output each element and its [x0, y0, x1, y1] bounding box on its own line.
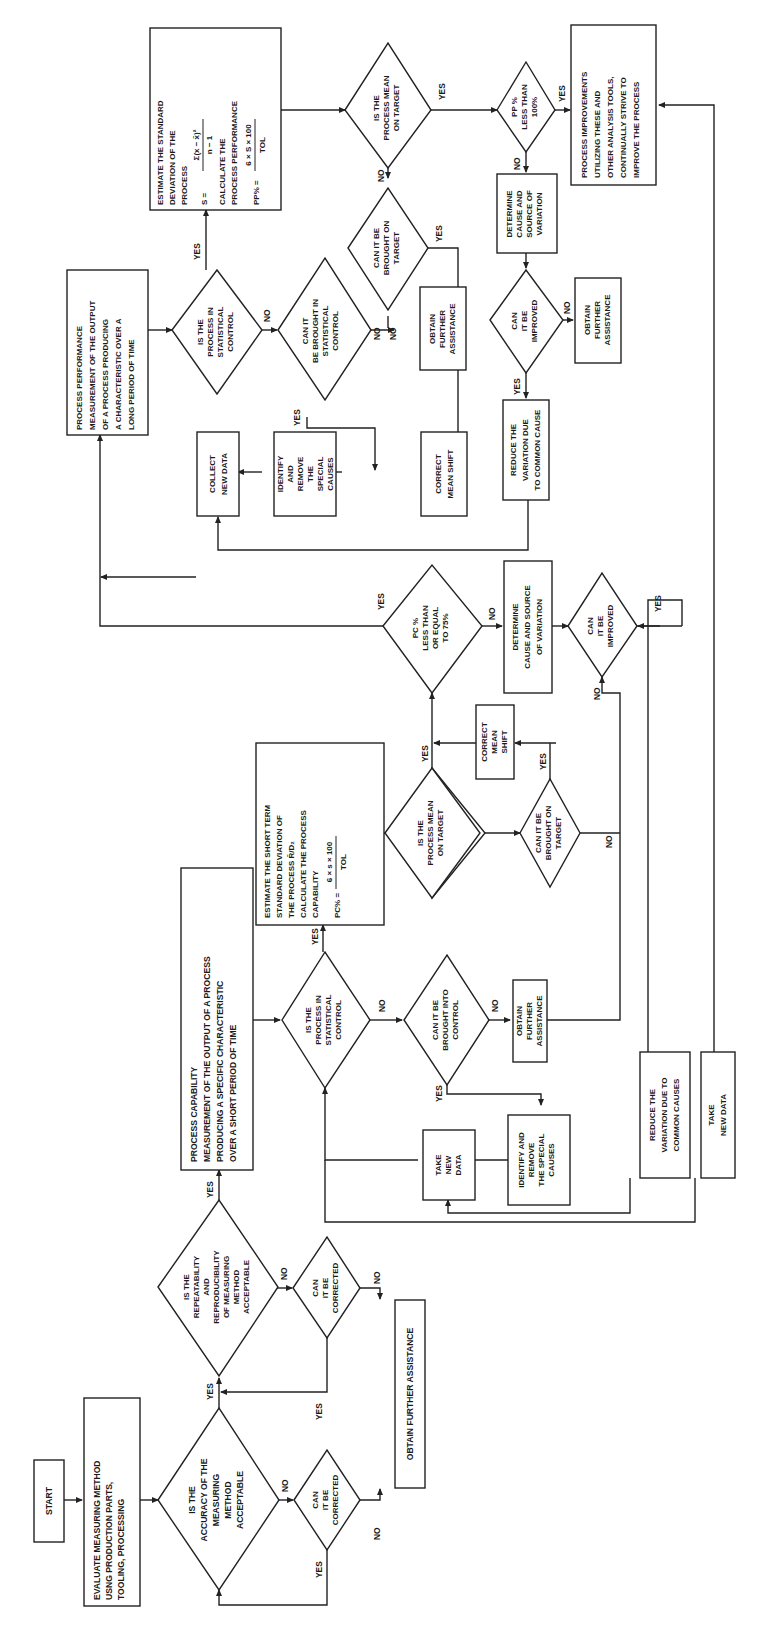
formula-lhs: PP% =	[252, 180, 261, 205]
pp-mean-on-target-decision: IS THE PROCESS MEAN ON TARGET	[345, 43, 431, 168]
node-text: ACCEPTABLE	[235, 1471, 245, 1529]
node-text: IS THE	[187, 1486, 197, 1514]
node-text: METHOD	[232, 1269, 241, 1304]
node-text: REMOVE	[527, 1142, 536, 1177]
node-text: ASSISTANCE	[535, 995, 544, 1047]
node-text: 100%	[530, 97, 539, 117]
edge-label-yes: YES	[437, 83, 447, 100]
node-text: CONTINUALLY STRIVE TO	[619, 77, 628, 178]
node-text: NEW DATA	[719, 1094, 728, 1136]
node-text: DATA	[454, 1154, 463, 1175]
edge	[218, 500, 528, 550]
node-text: SHIFT	[500, 730, 509, 753]
node-text: VARIATION DUE	[521, 418, 530, 481]
node-text: MEASUREMENT OF THE OUTPUT OF A PROCESS	[202, 956, 212, 1162]
node-text: SPECIAL	[316, 457, 325, 492]
node-text: TAKE	[707, 1104, 716, 1126]
edge-label-no: NO	[262, 309, 272, 322]
edge-label-no: NO	[372, 1527, 382, 1540]
node-text: STATISTICAL	[324, 994, 333, 1045]
edge	[325, 1088, 418, 1160]
edge-label-yes: YES	[420, 745, 430, 762]
node-text: PRODUCING A SPECIFIC CHARACTERISTIC	[215, 981, 225, 1162]
node-text: OR EQUAL	[431, 607, 440, 649]
node-text: OF MEASURING	[222, 1256, 231, 1318]
pc-identify-remove-special-causes: IDENTIFY AND REMOVE THE SPECIAL CAUSES	[508, 1115, 570, 1205]
node-text: ACCURACY OF THE	[199, 1458, 209, 1541]
node-text: TO 75%	[441, 613, 450, 642]
node-text: STATISTICAL	[321, 305, 330, 356]
node-text: ASSISTANCE	[603, 294, 612, 346]
edge-label-no: NO	[279, 1267, 289, 1280]
formula-numerator: 6 × s × 100	[325, 841, 334, 882]
node-text: OBTAIN FURTHER ASSISTANCE	[405, 1327, 415, 1460]
node-text: BROUGHT ON	[382, 220, 391, 275]
edge-label-yes: YES	[376, 593, 386, 610]
edge-label-yes: YES	[434, 225, 444, 242]
node-text: OBTAIN	[583, 305, 592, 335]
edge-label-no: NO	[604, 835, 614, 848]
node-text: CAPABILITY	[311, 870, 320, 918]
node-text: REDUCE THE	[648, 1088, 657, 1141]
node-text: LESS THAN	[421, 605, 430, 651]
node-text: CALCULATE THE	[218, 138, 227, 205]
edge	[515, 743, 556, 779]
node-text: CAN IT BE	[372, 227, 381, 268]
node-text: PROCESS	[180, 165, 189, 205]
node-text: TOOLING, PROCESSING	[116, 1499, 126, 1600]
edge-label-no: NO	[490, 999, 500, 1012]
node-text: OF A PROCESS PRODUCING	[101, 319, 110, 430]
node-text: ACCEPTABLE	[242, 1259, 251, 1314]
pc-can-be-improved-decision: CAN IT BE IMPROVED	[568, 573, 637, 677]
edge-label-no: NO	[487, 607, 497, 620]
node-text: CAN IT BE	[534, 812, 543, 853]
pc-determine-cause-source: DETERMINE CAUSE AND SOURCE OF VARIATION	[504, 561, 552, 693]
edge-label-yes: YES	[434, 1085, 444, 1102]
node-text: IS THE	[182, 1273, 191, 1299]
node-text: EVALUATE MEASURING METHOD	[92, 1460, 102, 1600]
edge	[648, 600, 682, 1055]
node-text: IDENTIFY	[276, 455, 285, 492]
node-text: CAUSE AND SOURCE	[523, 584, 532, 668]
node-text: CAN	[510, 312, 519, 330]
node-text: IS THE	[196, 318, 205, 344]
can-be-corrected-decision-1: CAN IT BE CORRECTED	[294, 1450, 360, 1550]
node-text: CAUSES	[326, 457, 335, 491]
node-text: DETERMINE	[511, 603, 520, 651]
node-text: IS THE	[304, 1006, 313, 1032]
node-text: MEASUREMENT OF THE OUTPUT	[88, 301, 97, 430]
pp-obtain-further-assistance-2: OBTAIN FURTHER ASSISTANCE	[575, 278, 621, 363]
edge-label-no: NO	[377, 999, 387, 1012]
node-text: NEW	[444, 1155, 453, 1174]
node-text: USNG PRODUCTION PARTS,	[104, 1482, 114, 1600]
node-text: AND	[286, 465, 295, 483]
edge	[360, 1489, 380, 1500]
pc-less-equal-75-decision: PC % LESS THAN OR EQUAL TO 75%	[383, 565, 482, 693]
edge-label-yes: YES	[205, 1383, 215, 1400]
edge-label-yes: YES	[292, 409, 302, 426]
edge-label-no: NO	[562, 301, 572, 314]
node-text: CAN	[586, 617, 595, 635]
node-text: OTHER ANALYSIS TOOLS,	[606, 77, 615, 179]
pp-brought-in-control-decision: CAN IT BE BROUGHT IN STATISTICAL CONTROL	[278, 258, 371, 400]
node-text: METHOD	[223, 1481, 233, 1518]
process-capability-box: PROCESS CAPABILITY MEASUREMENT OF THE OU…	[181, 868, 253, 1170]
node-text: TARGET	[392, 232, 401, 264]
node-text: MEAN SHIFT	[446, 449, 455, 498]
node-text: PROCESS MEAN	[426, 800, 435, 865]
node-text: ON TARGET	[392, 85, 401, 132]
evaluate-measuring-method-box: EVALUATE MEASURING METHOD USNG PRODUCTIO…	[84, 1398, 140, 1606]
edge-label-no: NO	[376, 169, 386, 182]
edge-label-no: NO	[592, 687, 602, 700]
node-text: COMMON CAUSES	[672, 1078, 681, 1152]
node-text: CALCULATE THE PROCESS	[299, 809, 308, 918]
node-text: VARIATION DUE TO	[660, 1077, 669, 1152]
node-text: CAUSE AND	[515, 190, 524, 237]
node-text: CONTROL	[451, 1000, 460, 1040]
node-text: DETERMINE	[505, 190, 514, 238]
node-text: CONTROL	[331, 311, 340, 351]
node-text: PC %	[411, 618, 420, 638]
node-text: BROUGHT ON	[544, 805, 553, 860]
edge	[602, 677, 620, 760]
start-node: START	[34, 1460, 64, 1542]
